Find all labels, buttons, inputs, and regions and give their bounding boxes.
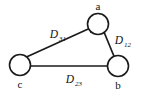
edge-label-d31-symbol: D	[49, 28, 59, 40]
edge-label-d12: D 12	[114, 34, 132, 49]
edge-b-to-c	[20, 61, 118, 70]
triangle-graph-figure: a b c D 31 D 12 D 23	[0, 0, 141, 99]
node-a-circle[interactable]	[88, 14, 109, 35]
edge-label-d23-subscript: 23	[75, 80, 83, 88]
node-b-label: b	[115, 79, 121, 91]
node-a-label: a	[96, 0, 101, 12]
edge-label-d31: D 31	[49, 28, 66, 43]
node-c[interactable]: c	[10, 55, 31, 91]
edge-label-d31-subscript: 31	[58, 35, 66, 43]
node-b[interactable]: b	[108, 56, 129, 92]
node-a[interactable]: a	[88, 0, 109, 35]
edge-label-d23: D 23	[65, 73, 83, 88]
node-c-label: c	[18, 78, 23, 90]
edge-label-d23-symbol: D	[65, 73, 75, 85]
edge-label-d12-symbol: D	[114, 34, 124, 46]
node-b-circle[interactable]	[108, 56, 129, 77]
node-c-circle[interactable]	[10, 55, 31, 76]
diagram-canvas: a b c D 31 D 12 D 23	[0, 0, 141, 99]
edge-label-d12-subscript: 12	[124, 41, 132, 49]
